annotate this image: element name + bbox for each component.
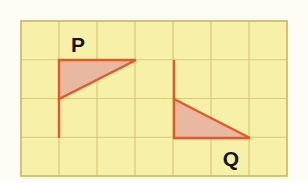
figure-container: PQ [0,0,308,183]
triangle-q-label: Q [223,147,239,170]
grid-figure: PQ [0,0,308,183]
triangle-p-label: P [71,33,85,56]
